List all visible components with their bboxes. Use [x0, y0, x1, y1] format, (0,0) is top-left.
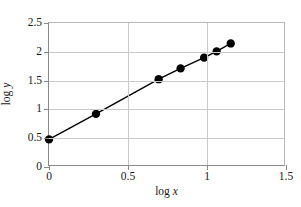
- data-point-marker: [155, 75, 163, 83]
- x-axis-tick-label: 1.5: [279, 171, 293, 183]
- y-axis-tick: [44, 109, 49, 110]
- x-axis-tick-label: 1: [204, 171, 210, 183]
- x-axis-label: log x: [48, 186, 285, 198]
- y-axis-tick-label: 0: [36, 161, 42, 173]
- data-point-marker: [45, 135, 53, 143]
- y-axis-tick: [44, 138, 49, 139]
- y-axis-tick-label: 1.5: [28, 75, 42, 87]
- gridline-vertical: [207, 23, 208, 165]
- gridline-vertical: [128, 23, 129, 165]
- gridline-horizontal: [49, 138, 284, 139]
- data-point-marker: [227, 39, 235, 47]
- data-point-marker: [176, 64, 184, 72]
- x-axis-tick-label: 0: [46, 171, 52, 183]
- x-axis-tick-label: 0.5: [121, 171, 135, 183]
- y-axis-tick-label: 2: [36, 46, 42, 58]
- x-axis-label-variable: x: [173, 185, 178, 197]
- y-axis-label: log y: [1, 83, 13, 106]
- y-axis-tick: [44, 81, 49, 82]
- y-axis-label-variable: y: [0, 83, 12, 88]
- gridline-horizontal: [49, 52, 284, 53]
- y-axis-label-prefix: log: [0, 91, 12, 106]
- chart-figure: 00.511.522.500.511.5 log x log y: [0, 0, 301, 207]
- y-axis-tick-label: 1: [36, 104, 42, 116]
- gridline-horizontal: [49, 109, 284, 110]
- y-axis-tick-label: 0.5: [28, 132, 42, 144]
- data-series-layer: [49, 23, 284, 165]
- data-point-marker: [92, 110, 100, 118]
- y-axis-tick-label: 2.5: [28, 17, 42, 29]
- x-axis-label-prefix: log: [155, 185, 170, 197]
- gridline-horizontal: [49, 81, 284, 82]
- plot-area: 00.511.522.500.511.5: [48, 22, 285, 166]
- y-axis-tick: [44, 23, 49, 24]
- y-axis-tick: [44, 52, 49, 53]
